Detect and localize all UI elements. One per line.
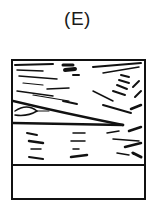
panel-label: (E) xyxy=(0,8,155,30)
figure-frame xyxy=(11,59,146,200)
streaked-strata-sketch xyxy=(13,61,144,165)
blank-lower-band xyxy=(13,166,144,198)
